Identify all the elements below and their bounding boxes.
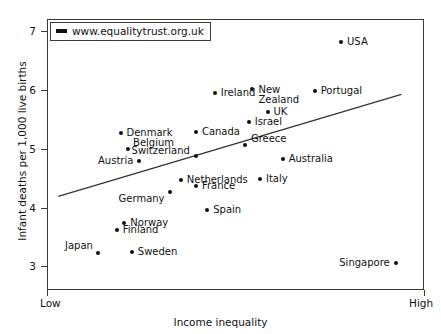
data-point: [281, 157, 285, 161]
data-point-label: Israel: [255, 117, 282, 128]
data-point-label: Spain: [213, 205, 241, 216]
data-point-label: New Zealand: [258, 85, 299, 106]
data-point-label: Greece: [251, 134, 287, 145]
data-point-label: Sweden: [138, 246, 178, 257]
x-tick-mark: [47, 290, 48, 296]
y-axis-title: Infant deaths per 1,000 live births: [16, 26, 28, 276]
x-axis-title: Income inequality: [0, 316, 441, 328]
data-point-label: Switzerland: [132, 145, 190, 156]
line-swatch-icon: [56, 29, 67, 33]
x-axis-low-label: Low: [40, 298, 61, 309]
data-point-label: Australia: [289, 154, 333, 165]
data-point-label: Japan: [65, 241, 93, 252]
page-top-strip: [0, 0, 441, 10]
data-point-label: Singapore: [339, 258, 389, 269]
scatter-plot-figure: 34567 Low High Income inequality Infant …: [0, 0, 441, 334]
data-point: [96, 251, 100, 255]
x-tick-mark: [424, 290, 425, 296]
y-tick-mark: [41, 266, 47, 267]
data-point: [339, 40, 343, 44]
x-axis-high-label: High: [409, 298, 433, 309]
data-point: [243, 143, 247, 147]
data-point: [168, 190, 172, 194]
data-point: [394, 261, 398, 265]
y-tick-mark: [41, 208, 47, 209]
data-point: [115, 228, 119, 232]
data-point: [194, 130, 198, 134]
data-point: [266, 110, 270, 114]
data-point: [130, 250, 134, 254]
legend-label: www.equalitytrust.org.uk: [72, 26, 204, 37]
data-point: [213, 91, 217, 95]
data-point: [179, 178, 183, 182]
data-point: [126, 147, 130, 151]
data-point-label: USA: [347, 37, 368, 48]
data-point: [247, 120, 251, 124]
y-tick-mark: [41, 90, 47, 91]
y-tick-mark: [41, 149, 47, 150]
y-tick-mark: [41, 31, 47, 32]
data-point-label: Austria: [98, 156, 133, 167]
data-point-label: Portugal: [321, 86, 362, 97]
legend: www.equalitytrust.org.uk: [50, 22, 211, 41]
data-point-label: Italy: [266, 174, 288, 185]
data-point-label: Germany: [119, 194, 165, 205]
data-point: [119, 131, 123, 135]
data-point-label: Ireland: [221, 87, 256, 98]
data-point-label: Canada: [202, 127, 240, 138]
data-point-label: France: [202, 181, 235, 192]
data-point: [194, 154, 198, 158]
data-point-label: Finland: [123, 225, 159, 236]
